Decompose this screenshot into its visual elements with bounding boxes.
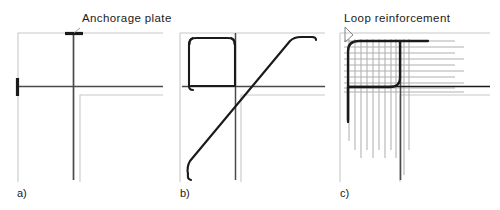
diagonal-bar-b (188, 37, 312, 174)
diagonal-bar-lower-hook-b (188, 174, 191, 180)
panel-c: Loop reinforcement c) (340, 12, 490, 199)
rounded-loop-bar-inner-c (348, 41, 400, 87)
reinforcement-detail-figure: Anchorage plate a) b) (0, 0, 500, 210)
rounded-loop-bar-b (189, 38, 235, 90)
loop-reinforcement-label: Loop reinforcement (344, 12, 451, 24)
panel-label-c: c) (340, 187, 349, 199)
anchorage-plate-label: Anchorage plate (82, 12, 172, 24)
loop-hook-top-right-b (231, 38, 235, 44)
concrete-inner-corner-a (80, 95, 163, 182)
panel-label-b: b) (180, 187, 190, 199)
panel-a: Anchorage plate a) (17, 12, 172, 199)
concrete-inner-corner-b (241, 95, 325, 182)
diagonal-bar-upper-hook-b (312, 37, 316, 40)
panel-label-a: a) (17, 187, 27, 199)
concrete-outline-c (340, 33, 490, 182)
concrete-inner-corner-c (400, 95, 490, 182)
concrete-outline-b (180, 33, 325, 182)
panel-b: b) (180, 33, 325, 199)
loop-hook-top-left-b (189, 38, 193, 44)
concrete-outline-a (18, 33, 163, 182)
